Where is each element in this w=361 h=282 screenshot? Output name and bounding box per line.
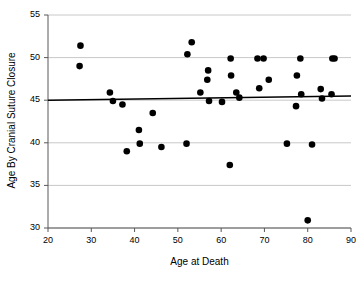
data-point [136, 140, 143, 147]
x-tick-label-70: 70 [254, 235, 274, 245]
y-tick-label-55: 55 [24, 9, 40, 19]
data-point [77, 42, 84, 49]
x-tick-label-30: 30 [81, 235, 101, 245]
data-point [149, 110, 156, 117]
data-point [297, 55, 304, 62]
data-point [204, 76, 211, 83]
x-tick-label-20: 20 [38, 235, 58, 245]
data-point [123, 148, 130, 155]
data-point [254, 55, 261, 62]
data-point [317, 86, 324, 93]
x-tick-label-50: 50 [168, 235, 188, 245]
data-point [219, 99, 226, 106]
x-tick-label-40: 40 [125, 235, 145, 245]
data-point [265, 76, 272, 83]
data-point [331, 55, 338, 62]
data-point [110, 98, 117, 105]
data-points [76, 39, 338, 224]
data-point [304, 217, 311, 224]
y-tick-label-45: 45 [24, 94, 40, 104]
data-point [328, 91, 335, 98]
data-point [309, 141, 316, 148]
data-point [236, 94, 243, 101]
data-point [158, 144, 165, 151]
trend-line [48, 96, 351, 100]
data-point [227, 162, 234, 169]
data-point [284, 140, 291, 147]
tick-marks [44, 15, 351, 232]
data-point [184, 51, 191, 58]
grid-lines [48, 15, 351, 228]
data-point [319, 95, 326, 102]
data-point [119, 101, 126, 108]
data-point [188, 39, 195, 46]
data-point [298, 91, 305, 98]
x-tick-label-80: 80 [298, 235, 318, 245]
data-point [183, 140, 190, 147]
data-point [294, 72, 301, 79]
axis-lines [48, 15, 351, 228]
data-point [293, 103, 300, 110]
x-tick-label-90: 90 [341, 235, 361, 245]
data-point [228, 72, 235, 79]
data-point [206, 98, 213, 105]
data-point [256, 85, 263, 92]
data-point [227, 55, 234, 62]
regression-line [48, 96, 351, 100]
data-point [136, 127, 143, 134]
y-tick-label-50: 50 [24, 52, 40, 62]
y-tick-label-30: 30 [24, 222, 40, 232]
data-point [197, 89, 204, 96]
x-tick-label-60: 60 [211, 235, 231, 245]
y-tick-label-35: 35 [24, 179, 40, 189]
data-point [76, 63, 83, 70]
scatter-plot-figure: Age By Cranial Suture Closure Age at Dea… [0, 0, 361, 282]
data-point [107, 89, 114, 96]
data-point [260, 55, 267, 62]
data-point [205, 67, 212, 74]
y-tick-label-40: 40 [24, 137, 40, 147]
